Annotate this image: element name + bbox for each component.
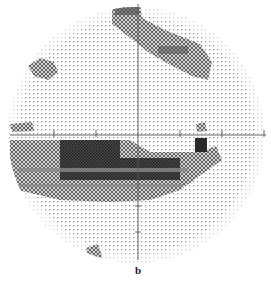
defect-stripe-1 bbox=[18, 168, 188, 172]
visual-field-plot bbox=[0, 0, 271, 288]
panel-label: b bbox=[135, 264, 141, 276]
field-area bbox=[0, 0, 271, 288]
defect-superior-core-2 bbox=[158, 46, 188, 54]
defect-superior-core bbox=[115, 5, 139, 15]
defect-stripe-2 bbox=[18, 184, 183, 187]
defect-dense-block-right bbox=[195, 138, 207, 152]
